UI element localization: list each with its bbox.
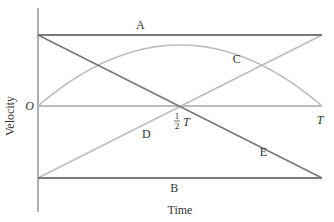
half-t-numerator: 1 [175,111,180,121]
y-axis-label: Velocity [3,96,17,136]
t-end-label: T [317,113,325,127]
series-b-label: B [170,181,178,195]
half-t-variable: T [183,115,191,129]
series-c-line [38,45,322,106]
series-a-label: A [136,18,145,32]
series-e-label: E [260,145,267,159]
origin-label: O [25,99,34,113]
velocity-time-diagram: ABCDE Velocity Time O 1 2 T T [0,0,334,222]
half-t-denominator: 2 [175,121,180,131]
series-d-label: D [142,127,151,141]
series-c-label: C [233,52,241,66]
x-axis-label: Time [168,203,193,217]
